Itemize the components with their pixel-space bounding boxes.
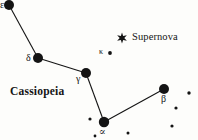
star-label-kappa: κ — [99, 48, 103, 56]
faint-star-f5 — [127, 132, 130, 135]
star-label-beta: β — [161, 94, 166, 104]
constellation-line-group — [9, 5, 164, 122]
faint-star-f3 — [174, 106, 177, 109]
star-label-delta: δ — [26, 53, 31, 63]
faint-star-f1 — [88, 117, 91, 120]
constellation-line-epsilon-delta — [9, 5, 38, 58]
faint-star-f4 — [170, 124, 173, 127]
bright-star-gamma — [81, 68, 91, 78]
star-label-gamma: γ — [76, 74, 80, 84]
constellation-line-gamma-alpha — [86, 73, 104, 122]
supernova-star-icon — [117, 32, 127, 43]
star-label-epsilon: ε — [0, 0, 4, 10]
faint-star-f6 — [94, 135, 97, 138]
supernova-burst-glyph — [117, 32, 127, 43]
bright-star-epsilon — [4, 0, 14, 10]
bright-star-delta — [33, 53, 43, 63]
star-label-alpha: ∝ — [99, 127, 106, 137]
constellation-name-label: Cassiopeia — [10, 86, 64, 98]
constellation-line-alpha-beta — [104, 89, 164, 122]
bright-star-group — [4, 0, 169, 127]
star-chart-figure: Cassiopeia Supernova εδγ∝βκ — [0, 0, 198, 140]
supernova-label: Supernova — [132, 32, 178, 43]
faint-star-f2 — [187, 91, 190, 94]
sky-canvas — [0, 0, 198, 140]
constellation-line-delta-gamma — [38, 58, 86, 73]
faint-star-kappa — [108, 51, 112, 55]
